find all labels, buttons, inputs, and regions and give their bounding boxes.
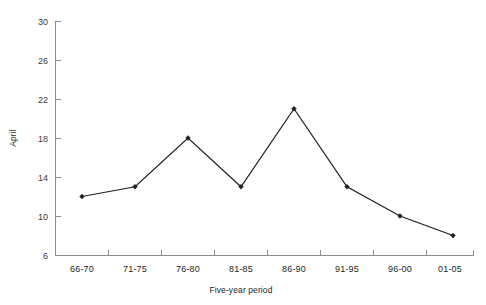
x-tick-label: 66-70 <box>70 264 94 274</box>
x-tick-label: 81-85 <box>229 264 253 274</box>
x-tick-label: 96-00 <box>388 264 412 274</box>
x-tick-label: 01-05 <box>438 264 462 274</box>
x-tick-label: 71-75 <box>123 264 147 274</box>
y-tick-label: 18 <box>38 134 48 144</box>
chart-background <box>0 0 486 305</box>
y-tick-label: 14 <box>38 173 48 183</box>
x-tick-label: 91-95 <box>335 264 359 274</box>
y-tick-label: 22 <box>38 95 48 105</box>
y-tick-label: 6 <box>43 251 48 261</box>
chart-canvas: 30 26 22 18 14 10 6 66-70 71-75 76-80 81… <box>0 0 486 305</box>
x-axis-title: Five-year period <box>209 285 272 295</box>
line-chart: 30 26 22 18 14 10 6 66-70 71-75 76-80 81… <box>0 0 486 305</box>
x-tick-label: 76-80 <box>176 264 200 274</box>
x-tick-label: 86-90 <box>282 264 306 274</box>
y-tick-label: 26 <box>38 56 48 66</box>
y-axis-title: April <box>8 129 18 147</box>
y-tick-label: 10 <box>38 212 48 222</box>
y-tick-label: 30 <box>38 17 48 27</box>
